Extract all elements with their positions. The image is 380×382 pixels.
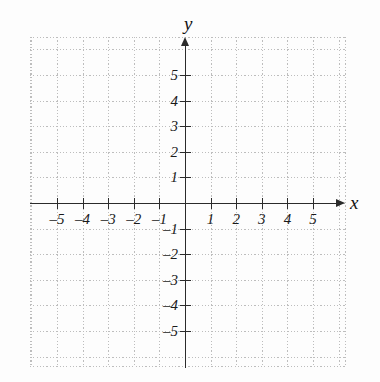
x-tick-mark [313, 198, 314, 209]
y-tick-mark [180, 152, 191, 153]
y-tick-mark [180, 280, 191, 281]
y-tick-label: 5 [171, 68, 179, 83]
y-tick-label: –1 [163, 221, 178, 236]
arrow-right-icon [336, 199, 345, 207]
grid-horizontal-lines [30, 37, 345, 366]
grid-vertical-lines [30, 37, 345, 366]
x-tick-mark [134, 198, 135, 209]
x-axis-line [30, 203, 337, 204]
y-tick-mark [180, 101, 191, 102]
grid-line-horizontal [30, 357, 345, 358]
arrow-up-icon [181, 37, 189, 46]
x-tick-label: 5 [309, 212, 317, 227]
y-tick-mark [180, 126, 191, 127]
grid-border-left [30, 37, 31, 366]
x-tick-mark [159, 198, 160, 209]
x-tick-label: 3 [258, 212, 266, 227]
y-tick-mark [180, 229, 191, 230]
grid-line-horizontal [30, 49, 345, 50]
y-tick-label: –2 [163, 247, 178, 262]
x-tick-mark [211, 198, 212, 209]
y-tick-label: 4 [171, 93, 179, 108]
x-tick-mark [83, 198, 84, 209]
y-tick-label: –3 [163, 272, 178, 287]
grid-border-bottom [30, 366, 345, 367]
coordinate-plane-figure: –5–4–3–2–112345 54321–1–2–3–4–5 x y [0, 0, 380, 382]
y-axis-line [185, 45, 186, 368]
y-tick-mark [180, 331, 191, 332]
y-tick-label: 3 [171, 119, 179, 134]
x-tick-label: 4 [284, 212, 292, 227]
grid-line-vertical [31, 37, 32, 366]
x-tick-mark [57, 198, 58, 209]
x-tick-label: –2 [126, 212, 141, 227]
y-tick-label: 2 [171, 144, 179, 159]
x-tick-label: –3 [101, 212, 116, 227]
x-tick-label: 2 [232, 212, 240, 227]
y-tick-mark [180, 254, 191, 255]
x-tick-mark [262, 198, 263, 209]
y-tick-label: –5 [163, 324, 178, 339]
x-tick-label: –5 [50, 212, 65, 227]
x-tick-mark [108, 198, 109, 209]
y-tick-label: 1 [171, 170, 179, 185]
y-tick-mark [180, 75, 191, 76]
x-tick-mark [236, 198, 237, 209]
grid [30, 37, 345, 366]
grid-border-right [345, 37, 346, 366]
y-tick-mark [180, 177, 191, 178]
y-tick-label: –4 [163, 298, 178, 313]
x-tick-label: 1 [207, 212, 215, 227]
y-tick-mark [180, 305, 191, 306]
y-axis-label: y [184, 14, 192, 33]
x-tick-mark [287, 198, 288, 209]
x-axis-label: x [350, 193, 358, 212]
x-tick-label: –4 [75, 212, 90, 227]
